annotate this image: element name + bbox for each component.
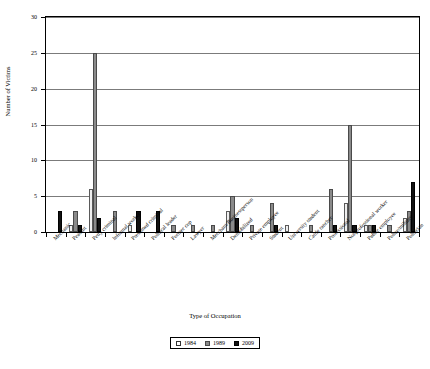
legend-label: 1989 xyxy=(213,340,225,346)
bar xyxy=(93,53,97,232)
legend-swatch-icon xyxy=(205,341,210,346)
bar-group xyxy=(364,17,377,232)
x-axis-category-labels: MechanicPeasantPetty criminalInformal wo… xyxy=(0,237,430,309)
legend-entry: 1989 xyxy=(205,340,225,346)
bar-group xyxy=(344,17,357,232)
victims-by-occupation-bar-chart: Number of Victims 051015202530 MechanicP… xyxy=(0,0,430,369)
y-tick-label: 25 xyxy=(31,50,37,56)
bar-group xyxy=(89,17,102,232)
legend-swatch-icon xyxy=(176,341,181,346)
bar-group xyxy=(324,17,337,232)
bars-layer xyxy=(46,17,419,232)
bar xyxy=(411,182,415,232)
y-tick-label: 30 xyxy=(31,14,37,20)
bar-group xyxy=(167,17,180,232)
legend-entry: 1984 xyxy=(176,340,196,346)
y-tick-label: 15 xyxy=(31,122,37,128)
legend-swatch-icon xyxy=(234,341,239,346)
bar-group xyxy=(108,17,121,232)
y-tick-label: 20 xyxy=(31,86,37,92)
bar xyxy=(348,125,352,233)
bar-group xyxy=(285,17,298,232)
y-axis: 051015202530 xyxy=(0,16,45,234)
bar-group xyxy=(187,17,200,232)
bar-group xyxy=(148,17,161,232)
bar-group xyxy=(403,17,416,232)
x-axis-title: Type of Occupation xyxy=(0,312,430,320)
legend-entry: 2009 xyxy=(234,340,254,346)
legend-label: 2009 xyxy=(242,340,254,346)
legend-label: 1984 xyxy=(184,340,196,346)
bar-group xyxy=(207,17,220,232)
bar-group xyxy=(50,17,63,232)
y-tick-label: 5 xyxy=(34,193,37,199)
bar-group xyxy=(128,17,141,232)
bar-group xyxy=(305,17,318,232)
y-tick-label: 10 xyxy=(31,157,37,163)
bar-group xyxy=(69,17,82,232)
y-tick-label: 0 xyxy=(34,229,37,235)
bar-group xyxy=(265,17,278,232)
chart-legend: 198419892009 xyxy=(170,337,260,349)
bar-group xyxy=(226,17,239,232)
bar xyxy=(285,225,289,232)
